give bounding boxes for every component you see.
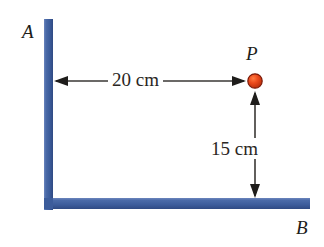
diagram-canvas bbox=[0, 0, 324, 247]
physics-diagram: A B P 20 cm 15 cm bbox=[0, 0, 324, 247]
horizontal-rod bbox=[44, 198, 310, 209]
rod-corner-join bbox=[44, 198, 53, 209]
label-vertex-b: B bbox=[296, 218, 308, 237]
label-point-p: P bbox=[246, 44, 258, 63]
dimension-label-horizontal: 20 cm bbox=[108, 69, 163, 90]
label-vertex-a: A bbox=[22, 22, 34, 41]
dimension-label-vertical: 15 cm bbox=[207, 138, 262, 159]
vertical-rod bbox=[44, 19, 53, 210]
point-charge-marker bbox=[248, 74, 262, 88]
